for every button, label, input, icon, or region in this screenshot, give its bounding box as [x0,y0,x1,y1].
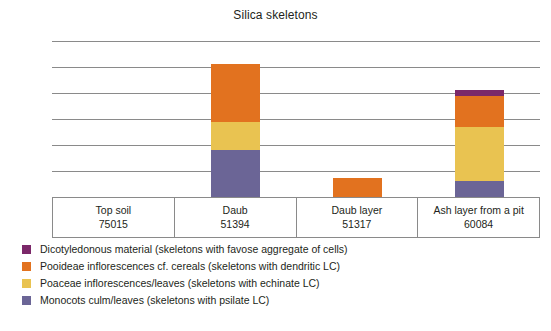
category-cell: Daub layer51317 [297,198,419,237]
bar-segment [211,150,260,197]
bar-segment [211,64,260,121]
category-code: 75015 [99,218,128,231]
category-code: 60084 [464,218,493,231]
chart-container: Silica skeletons 00.511.522.53 % Top soi… [0,0,551,331]
category-name: Ash layer from a pit [433,204,523,217]
legend-label: Pooideae inflorescences cf. cereals (ske… [40,261,340,272]
category-name: Daub layer [331,204,382,217]
legend-item[interactable]: Pooideae inflorescences cf. cereals (ske… [22,258,522,275]
legend-label: Dicotyledonous material (skeletons with … [40,244,348,255]
legend-item[interactable]: Monocots culm/leaves (skeletons with psi… [22,292,522,309]
category-cell: Top soil75015 [53,198,175,237]
bar-segment [455,127,504,182]
legend-item[interactable]: Dicotyledonous material (skeletons with … [22,241,522,258]
bar-stack [333,178,382,197]
legend-swatch-icon [22,279,31,288]
category-cell: Daub51394 [175,198,297,237]
legend-swatch-icon [22,296,31,305]
bar-stack [211,64,260,197]
bar-segment [333,178,382,197]
legend-item[interactable]: Poaceae inflorescences/leaves (skeletons… [22,275,522,292]
category-code: 51394 [221,218,250,231]
chart-legend: Dicotyledonous material (skeletons with … [22,241,522,309]
bar-stack [455,90,504,197]
category-name: Top soil [96,204,132,217]
legend-label: Poaceae inflorescences/leaves (skeletons… [40,278,320,289]
bar-segment [455,181,504,197]
plot-area: 00.511.522.53 % [52,41,540,197]
legend-label: Monocots culm/leaves (skeletons with psi… [40,295,269,306]
bar-series-group [52,41,540,197]
legend-swatch-icon [22,262,31,271]
bar-segment [211,122,260,151]
legend-swatch-icon [22,245,31,254]
category-cell: Ash layer from a pit60084 [418,198,539,237]
category-axis-table: Top soil75015Daub51394Daub layer51317Ash… [52,197,540,238]
category-code: 51317 [342,218,371,231]
chart-title: Silica skeletons [0,8,551,22]
category-name: Daub [223,204,248,217]
bar-segment [455,96,504,127]
